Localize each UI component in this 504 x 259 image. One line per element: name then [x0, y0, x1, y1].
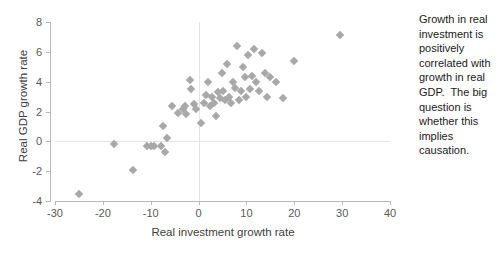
data-point — [168, 101, 176, 109]
gridline-x-zero — [199, 22, 200, 201]
scatter-chart: -30-20-10010203040 -4-202468 Real invest… — [0, 0, 412, 259]
y-tick-mark — [46, 82, 50, 83]
x-tick-label: 10 — [226, 206, 266, 220]
data-point — [246, 85, 254, 93]
data-point — [233, 42, 241, 50]
y-tick-label: 8 — [4, 16, 42, 28]
data-point — [244, 51, 252, 59]
x-tick-mark — [151, 201, 152, 205]
y-tick-mark — [46, 201, 50, 202]
y-tick-label: -4 — [4, 195, 42, 207]
x-tick-mark — [390, 201, 391, 205]
data-point — [223, 60, 231, 68]
data-point — [212, 112, 220, 120]
data-point — [217, 68, 225, 76]
data-point — [187, 85, 195, 93]
y-tick-mark — [46, 171, 50, 172]
x-tick-label: 40 — [370, 206, 410, 220]
x-axis-title: Real investment growth rate — [55, 226, 391, 238]
x-tick-label: -20 — [83, 206, 123, 220]
x-tick-mark — [294, 201, 295, 205]
x-tick-mark — [103, 201, 104, 205]
y-axis-title: Real GDP growth rate — [17, 36, 29, 176]
data-point — [279, 94, 287, 102]
y-tick-mark — [46, 52, 50, 53]
y-tick-mark — [46, 141, 50, 142]
data-point — [159, 122, 167, 130]
x-tick-label: -30 — [35, 206, 75, 220]
annotation-text: Growth in real investment is positively … — [419, 12, 499, 158]
y-tick-mark — [46, 22, 50, 23]
data-point — [75, 189, 83, 197]
data-point — [272, 77, 280, 85]
data-point — [161, 148, 169, 156]
chart-screenshot: -30-20-10010203040 -4-202468 Real invest… — [0, 0, 504, 259]
x-tick-mark — [55, 201, 56, 205]
data-point — [263, 92, 271, 100]
data-point — [128, 165, 136, 173]
gridline-y-zero — [55, 141, 390, 142]
x-tick-label: -10 — [131, 206, 171, 220]
x-axis-line — [55, 201, 391, 202]
x-tick-label: 30 — [322, 206, 362, 220]
plot-area — [55, 22, 390, 201]
data-point — [186, 76, 194, 84]
x-tick-mark — [199, 201, 200, 205]
y-axis-line — [50, 22, 51, 202]
data-point — [336, 31, 344, 39]
x-tick-label: 0 — [179, 206, 219, 220]
y-tick-mark — [46, 112, 50, 113]
data-point — [257, 49, 265, 57]
data-point — [240, 73, 248, 81]
x-tick-label: 20 — [274, 206, 314, 220]
x-tick-mark — [342, 201, 343, 205]
data-point — [182, 110, 190, 118]
data-point — [238, 63, 246, 71]
data-point — [290, 57, 298, 65]
data-point — [255, 86, 263, 94]
x-tick-mark — [246, 201, 247, 205]
data-point — [204, 77, 212, 85]
